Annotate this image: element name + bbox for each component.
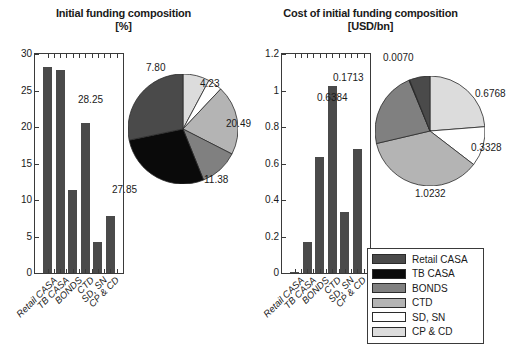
x-tick-mark <box>54 54 55 58</box>
bar-axes-left: 051015202530Retail CASATB CASABONDSCTDSD… <box>34 53 124 274</box>
x-tick-mark <box>110 54 111 58</box>
legend-label: Retail CASA <box>412 254 468 265</box>
y-tick-label: 0.8 <box>265 122 279 132</box>
x-tick-mark <box>66 54 67 58</box>
y-tick-mark <box>35 127 39 128</box>
legend-item[interactable]: TB CASA <box>372 267 479 282</box>
x-tick-mark <box>79 54 80 58</box>
funding-category-legend: Retail CASATB CASABONDSCTDSD, SNCP & CD <box>367 248 484 344</box>
bar <box>315 157 324 274</box>
y-tick-label: 0.2 <box>265 232 279 242</box>
y-tick-mark <box>282 91 286 92</box>
pie-value-label: 11.38 <box>204 174 228 185</box>
legend-label: CTD <box>412 297 433 308</box>
pie-slice <box>128 74 183 140</box>
bar <box>56 70 65 273</box>
y-tick-label: 10 <box>21 195 32 205</box>
chart-title-right: Cost of initial funding composition [USD… <box>247 7 494 33</box>
legend-label: TB CASA <box>412 268 455 279</box>
panel-initial-funding: Initial funding composition [%] 05101520… <box>0 0 247 355</box>
chart-subtitle-right-text: [USD/bn] <box>247 20 494 33</box>
pie-value-label: 0.6768 <box>475 88 506 99</box>
chart-subtitle-left-text: [%] <box>0 20 247 33</box>
pie-value-label: 1.0232 <box>415 188 446 199</box>
y-tick-label: 5 <box>26 232 32 242</box>
pie-wrap-left: 7.804.2320.4911.3827.8528.25 <box>128 74 238 184</box>
legend-swatch <box>372 327 406 337</box>
y-tick-mark <box>282 127 286 128</box>
pie-wrap-right: 0.67680.33281.02320.63840.00700.1713 <box>375 76 485 186</box>
bar <box>81 123 90 273</box>
x-tick-mark <box>357 54 358 58</box>
y-tick-label: 0.4 <box>265 195 279 205</box>
x-tick-mark <box>301 54 302 58</box>
y-tick-mark <box>282 200 286 201</box>
pie-value-label: 4.23 <box>200 78 219 89</box>
pie-value-label: 28.25 <box>78 94 103 105</box>
bar <box>68 190 77 273</box>
y-tick-mark <box>282 237 286 238</box>
y-tick-label: 0.6 <box>265 159 279 169</box>
y-tick-label: 25 <box>21 86 32 96</box>
legend-label: CP & CD <box>412 326 452 337</box>
x-tick-mark <box>73 54 74 58</box>
pie-value-label: 0.1713 <box>333 72 364 83</box>
x-tick-mark <box>98 54 99 58</box>
x-axis-labels: Retail CASATB CASABONDSCTDSD, SNCP & CD <box>35 273 123 353</box>
x-tick-mark <box>339 54 340 58</box>
x-tick-mark <box>307 54 308 58</box>
x-tick-mark <box>85 54 86 58</box>
pie-value-label: 27.85 <box>112 184 137 195</box>
y-tick-label: 0 <box>273 268 279 278</box>
pie-value-label: 0.6384 <box>317 92 348 103</box>
pie-chart <box>128 74 238 184</box>
legend-item[interactable]: CTD <box>372 296 479 311</box>
x-tick-mark <box>364 54 365 58</box>
bar <box>353 149 362 273</box>
legend-label: BONDS <box>412 283 448 294</box>
x-tick-mark <box>48 54 49 58</box>
legend-item[interactable]: BONDS <box>372 281 479 296</box>
y-tick-mark <box>35 91 39 92</box>
bar <box>328 86 337 273</box>
x-tick-mark <box>351 54 352 58</box>
y-tick-label: 30 <box>21 49 32 59</box>
y-tick-mark <box>282 164 286 165</box>
legend-swatch <box>372 312 406 322</box>
x-tick-mark <box>104 54 105 58</box>
x-tick-mark <box>332 54 333 58</box>
y-tick-label: 0 <box>26 268 32 278</box>
y-tick-label: 1.2 <box>265 49 279 59</box>
chart-title-left-text: Initial funding composition <box>56 7 191 19</box>
x-tick-mark <box>117 54 118 58</box>
legend-item[interactable]: SD, SN <box>372 310 479 325</box>
x-tick-mark <box>326 54 327 58</box>
chart-title-left: Initial funding composition [%] <box>0 7 247 33</box>
chart-title-right-text: Cost of initial funding composition <box>283 7 457 19</box>
y-tick-mark <box>282 54 286 55</box>
legend-swatch <box>372 298 406 308</box>
legend-swatch <box>372 269 406 279</box>
y-tick-label: 15 <box>21 159 32 169</box>
x-axis-labels: Retail CASATB CASABONDSCTDSD, SNCP & CD <box>282 273 370 353</box>
legend-label: SD, SN <box>412 312 445 323</box>
legend-item[interactable]: Retail CASA <box>372 252 479 267</box>
y-tick-label: 1 <box>273 86 279 96</box>
x-tick-mark <box>320 54 321 58</box>
y-tick-mark <box>35 200 39 201</box>
x-tick-mark <box>60 54 61 58</box>
pie-value-label: 0.0070 <box>383 52 414 63</box>
legend-item[interactable]: CP & CD <box>372 325 479 340</box>
pie-slice <box>430 76 485 131</box>
pie-value-label: 0.3328 <box>471 142 502 153</box>
x-tick-mark <box>345 54 346 58</box>
y-tick-mark <box>35 54 39 55</box>
y-tick-mark <box>35 237 39 238</box>
legend-swatch <box>372 254 406 264</box>
y-tick-mark <box>35 164 39 165</box>
pie-chart <box>375 76 485 186</box>
bar <box>106 216 115 273</box>
bar <box>43 67 52 273</box>
legend-swatch <box>372 283 406 293</box>
